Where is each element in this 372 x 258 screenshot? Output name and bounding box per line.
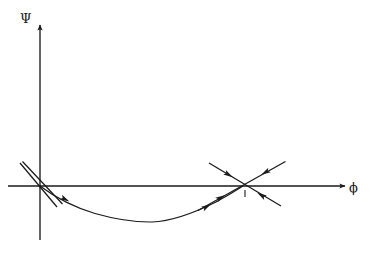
- heteroclinic-curve: [40, 186, 243, 222]
- heteroclinic-curve-group: [40, 186, 243, 222]
- phi-axis-label: ϕ: [349, 181, 358, 194]
- origin-separatrix-group: [20, 162, 63, 208]
- node-arrow-nw: [223, 170, 234, 179]
- origin-separatrix-lower: [23, 162, 63, 205]
- origin-separatrix-upper: [20, 163, 57, 207]
- psi-axis-label: Ψ: [20, 12, 31, 25]
- axes-group: [8, 25, 345, 240]
- phase-portrait-canvas: [0, 0, 372, 258]
- phase-portrait-figure: Ψ ϕ: [0, 0, 372, 258]
